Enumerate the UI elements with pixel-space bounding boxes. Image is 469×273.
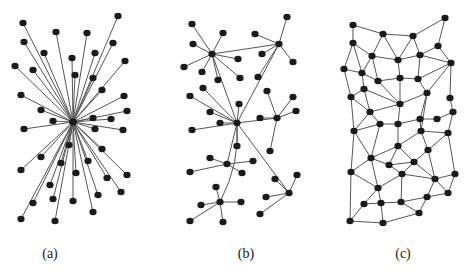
leaf-node [123,172,130,178]
leaf-node [121,58,128,64]
mesh-edge [354,112,370,131]
leaf-node [237,199,244,205]
mesh-edge [354,124,380,131]
hub-node [208,51,215,57]
leaf-node [57,160,64,166]
leaf-node [199,85,206,91]
leaf-node [206,109,213,115]
leaf-node [89,75,96,81]
leaf-node [49,196,56,202]
leaf-node [258,51,265,57]
leaf-node [212,184,219,190]
mesh-node [431,176,438,182]
leaf-node [69,198,76,204]
leaf-node [84,158,91,164]
spoke-edge [73,53,95,122]
mesh-node [451,171,458,177]
mesh-node [377,200,384,206]
mesh-node [424,147,431,153]
mesh-edge [448,133,455,174]
spoke-edge [72,58,73,122]
leaf-node [262,194,269,200]
leaf-node [289,59,296,65]
mesh-node [349,40,356,46]
mesh-edge [378,174,402,188]
mesh-node [396,101,403,107]
leaf-node [186,93,193,99]
mesh-node [349,22,356,28]
leaf-node [197,202,204,208]
leaf-node [254,74,261,80]
leaf-node [94,192,101,198]
mesh-node [346,218,353,224]
spoke-edge [203,88,237,123]
leaf-node [119,127,126,133]
leaf-node [206,155,213,161]
spoke-edge [192,123,237,130]
spoke-edge [73,122,121,192]
leaf-node [293,172,300,178]
hub-node [275,41,282,47]
spoke-edge [192,24,212,54]
mesh-edge [351,172,378,188]
leaf-node [20,126,27,132]
mesh-node [360,86,367,92]
spoke-edge [50,122,73,185]
mesh-edge [351,158,371,172]
hub-link-edge [212,44,279,54]
mesh-node [444,190,451,196]
mesh-node [409,33,416,39]
mesh-edge [400,93,427,104]
mesh-edge [364,89,400,104]
network-topologies-figure [0,0,469,273]
spoke-edge [73,96,124,122]
leaf-node [20,39,27,45]
leaf-node [51,218,58,224]
panel-label-b: (b) [238,246,254,262]
leaf-node [40,50,47,56]
hub-link-edge [237,44,279,123]
mesh-node [398,171,405,177]
mesh-edge [354,131,371,158]
leaf-node [188,21,195,27]
leaf-node [19,20,26,26]
leaf-node [46,182,53,188]
leaf-node [219,219,226,225]
leaf-node [120,93,127,99]
mesh-edge [398,131,421,146]
hub-node [216,199,223,205]
leaf-node [234,56,241,62]
mesh-edge [421,131,448,133]
mesh-node [416,52,423,58]
spoke-edge [212,33,223,54]
leaf-node [188,127,195,133]
mesh-node [374,185,381,191]
leaf-node [249,158,256,164]
mesh-node [358,70,365,76]
leaf-node [189,41,196,47]
leaf-node [186,169,193,175]
mesh-node [417,128,424,134]
panel-label-a: (a) [42,246,58,262]
leaf-node [123,108,130,114]
hub-node [223,161,230,167]
spoke-edge [258,44,279,77]
mesh-node [394,143,401,149]
leaf-node [17,216,24,222]
leaf-node [37,154,44,160]
leaf-node [68,55,75,61]
spoke-edge [227,161,253,164]
spoke-edge [267,91,277,118]
mesh-edge [350,172,351,221]
spoke-edge [212,54,238,59]
mesh-edge [378,81,400,104]
hub-node [285,190,292,196]
leaf-node [91,50,98,56]
mesh-edge [371,146,398,158]
mesh-node [444,130,451,136]
mesh-node [441,15,448,21]
leaf-node [235,101,242,107]
mesh-node [416,116,423,122]
leaf-node [219,30,226,36]
spoke-edge [190,96,237,123]
